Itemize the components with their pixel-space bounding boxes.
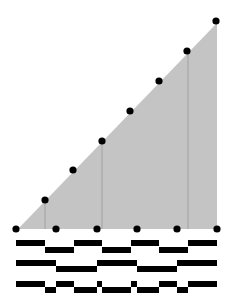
waveform-segment-high [97, 281, 102, 287]
waveform-segment-high [16, 260, 56, 266]
signal-1-waveform [16, 240, 217, 253]
ramp-dot [98, 137, 105, 144]
waveform-segment-low [56, 266, 97, 272]
waveform-segment-low [45, 247, 74, 253]
waveform-segment-high [16, 240, 45, 246]
waveform-segment-high [74, 240, 102, 246]
waveform-segment-low [74, 287, 97, 293]
ramp-dot [155, 77, 162, 84]
diagram-stage [0, 0, 230, 307]
waveform-segment-low [45, 287, 56, 293]
baseline-dot [213, 225, 220, 232]
waveform-segment-high [56, 281, 74, 287]
waveform-segment-high [188, 240, 217, 246]
waveform-segment-high [188, 281, 217, 287]
signal-2-waveform [16, 260, 217, 272]
ramp-dot [126, 107, 133, 114]
waveform-segment-high [131, 281, 137, 287]
waveform-segment-low [159, 247, 188, 253]
waveform-segment-high [177, 260, 217, 266]
ramp-dot [212, 17, 219, 24]
ramp-dot [41, 196, 48, 203]
baseline-dot [173, 225, 180, 232]
waveform-rows [16, 240, 217, 293]
waveform-segment-low [177, 287, 188, 293]
ramp-dot [69, 166, 76, 173]
waveform-segment-high [159, 281, 177, 287]
waveform-segment-high [131, 240, 159, 246]
baseline-dot [12, 225, 19, 232]
ramp-waveform-diagram [0, 0, 230, 307]
waveform-segment-low [102, 287, 131, 293]
signal-3-waveform [16, 281, 217, 293]
baseline-dot [93, 225, 100, 232]
ramp-dot [183, 47, 190, 54]
waveform-segment-high [97, 260, 137, 266]
baseline-dot [133, 225, 140, 232]
baseline-dot [52, 225, 59, 232]
waveform-segment-low [102, 247, 131, 253]
waveform-segment-low [137, 266, 177, 272]
waveform-segment-low [137, 287, 159, 293]
waveform-segment-high [16, 281, 45, 287]
